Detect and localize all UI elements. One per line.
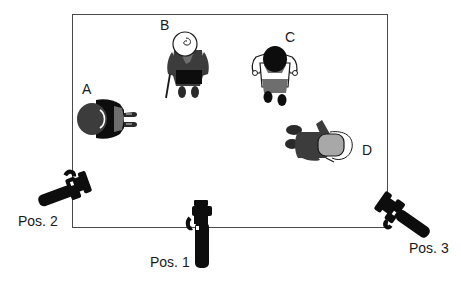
person-a-icon bbox=[74, 96, 144, 142]
scene-diagram: A B C D bbox=[0, 0, 461, 281]
person-d-label: D bbox=[362, 143, 372, 157]
person-b-icon bbox=[164, 30, 212, 102]
camera-pos2-label: Pos. 2 bbox=[18, 214, 58, 228]
person-d-icon bbox=[284, 120, 356, 168]
camera-pos2-icon bbox=[34, 168, 98, 210]
person-c-label: C bbox=[285, 30, 295, 44]
camera-pos3-icon bbox=[370, 195, 436, 239]
camera-pos1-label: Pos. 1 bbox=[150, 255, 190, 269]
person-c-icon bbox=[250, 45, 300, 107]
camera-pos3-label: Pos. 3 bbox=[409, 241, 449, 255]
person-a-label: A bbox=[82, 82, 91, 96]
